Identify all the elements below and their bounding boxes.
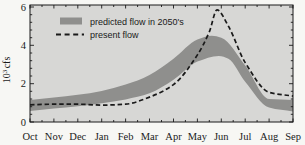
y-axis-title-base: 10: [1, 73, 12, 83]
x-tick-label: May: [188, 131, 208, 142]
x-tick-label: Jul: [239, 131, 251, 142]
x-tick-label: Oct: [22, 131, 37, 142]
y-axis-title-exponent: 3: [1, 69, 9, 73]
y-tick-label: 2: [21, 78, 26, 89]
x-tick-label: Nov: [45, 131, 64, 142]
x-tick-label: Aug: [260, 131, 279, 142]
flow-chart: OctNovDecJanFebMarAprMayJunJulAugSep 024…: [0, 0, 305, 145]
x-tick-label: Jan: [95, 131, 110, 142]
y-tick-label: 0: [21, 117, 26, 128]
legend-band-label: predicted flow in 2050's: [90, 17, 184, 27]
x-tick-label: Apr: [165, 131, 182, 142]
x-tick-label: Dec: [69, 131, 86, 142]
y-axis-title-unit: cfs: [1, 57, 12, 69]
y-axis-labels: 0246: [21, 2, 27, 128]
x-tick-label: Jun: [214, 131, 229, 142]
x-axis-labels: OctNovDecJanFebMarAprMayJunJulAugSep: [22, 131, 300, 142]
x-tick-label: Sep: [285, 131, 301, 142]
legend-present-label: present flow: [90, 30, 139, 40]
x-tick-label: Feb: [118, 131, 134, 142]
y-axis-title: 103cfs: [1, 57, 12, 84]
y-tick-label: 4: [21, 40, 27, 51]
legend-band-swatch: [60, 18, 82, 25]
flow-chart-figure: OctNovDecJanFebMarAprMayJunJulAugSep 024…: [0, 0, 305, 145]
y-tick-label: 6: [21, 2, 26, 13]
x-tick-label: Mar: [141, 131, 159, 142]
